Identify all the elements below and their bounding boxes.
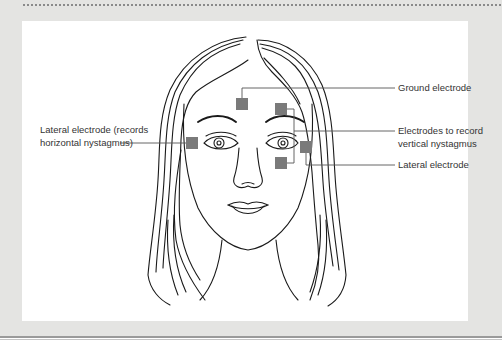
electrode-ground [236, 98, 248, 110]
eyebrow-left [198, 116, 236, 122]
electrode-lateral-right [300, 141, 312, 153]
electrode-vertical-upper [275, 103, 287, 115]
label-vertical-line1: Electrodes to record [398, 125, 483, 137]
electrode-vertical-lower [275, 157, 287, 169]
label-vertical-line2: vertical nystagmus [398, 138, 477, 150]
face-outline [184, 104, 313, 250]
nose [234, 148, 263, 188]
label-lateral-left-line1: Lateral electrode (records [40, 124, 148, 136]
eyebrow-right [266, 116, 304, 122]
leader-lateral-right [306, 153, 395, 165]
electrode-lateral-left [186, 137, 198, 149]
label-lateral-right: Lateral electrode [398, 159, 469, 171]
neck [200, 240, 222, 300]
face-illustration [0, 0, 502, 352]
label-ground-electrode: Ground electrode [398, 82, 471, 94]
label-lateral-left-line2: horizontal nystagmus) [40, 137, 133, 149]
